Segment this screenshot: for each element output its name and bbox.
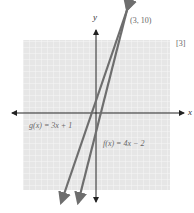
graph [0,0,194,213]
f-function-label: f(x) = 4x − 2 [103,140,144,148]
intersection-label: (3, 10) [130,17,151,25]
g-function-label: g(x) = 3x + 1 [29,122,72,130]
y-axis-label: y [93,13,97,22]
x-axis-label: x [188,108,192,117]
problem-number: [3] [176,40,185,48]
